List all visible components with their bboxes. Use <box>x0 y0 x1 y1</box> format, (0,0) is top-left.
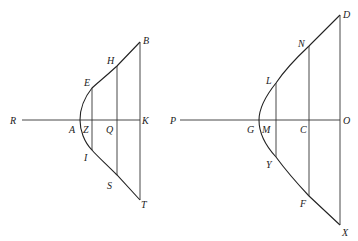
label-k: K <box>141 115 150 126</box>
label-d: D <box>342 9 351 20</box>
label-i: I <box>83 152 88 163</box>
label-s: S <box>107 180 112 191</box>
label-e: E <box>83 77 90 88</box>
label-z: Z <box>83 124 89 135</box>
label-o: O <box>343 115 350 126</box>
label-x: X <box>341 227 349 238</box>
label-c: C <box>300 124 307 135</box>
label-t: T <box>141 199 148 210</box>
right-hyperbola-figure: P G M C O L N D Y F X <box>169 9 351 238</box>
label-l: L <box>265 75 272 86</box>
label-r: R <box>9 115 16 126</box>
label-y: Y <box>266 159 273 170</box>
label-g: G <box>247 124 254 135</box>
label-f: F <box>299 198 307 209</box>
geometry-figures: R A Z Q K E H B I S T P G M C O L N D Y … <box>0 0 358 241</box>
label-n: N <box>297 38 306 49</box>
left-hyperbola-figure: R A Z Q K E H B I S T <box>9 35 150 210</box>
label-a: A <box>68 124 76 135</box>
label-h: H <box>106 55 115 66</box>
label-m: M <box>261 124 271 135</box>
label-b: B <box>143 35 149 46</box>
label-q: Q <box>106 124 114 135</box>
label-p: P <box>169 115 176 126</box>
